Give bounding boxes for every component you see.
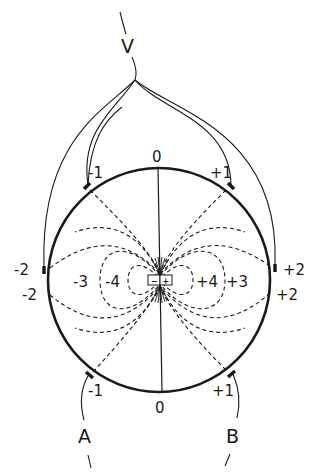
label-top-left: -1	[88, 164, 103, 182]
terminal-v: V	[121, 35, 134, 57]
label-bottom-left: -1	[88, 382, 103, 400]
label-minus-3: -3	[73, 273, 88, 291]
label-bottom-right: +1	[212, 382, 234, 400]
label-top-zero: 0	[152, 148, 162, 166]
label-left-lower: -2	[22, 286, 37, 304]
label-plus-4: +4	[196, 273, 218, 291]
label-top-right: +1	[210, 164, 232, 182]
dipole-negative: −	[151, 277, 158, 286]
label-plus-3: +3	[226, 273, 248, 291]
label-right-upper: +2	[283, 261, 305, 279]
electrode-top-left	[84, 183, 90, 189]
dipole-source: − +	[148, 275, 172, 286]
terminal-a: A	[78, 425, 91, 447]
terminal-b: B	[226, 425, 239, 447]
dipole-positive: +	[163, 277, 170, 286]
label-right-lower: +2	[276, 286, 298, 304]
label-minus-4: -4	[105, 273, 120, 291]
dipole-field-diagram: − + V A B 0 0 -1 +1 -1 +1 -2 -2	[0, 0, 313, 476]
label-left-upper: -2	[14, 261, 29, 279]
label-bottom-zero: 0	[155, 399, 165, 417]
